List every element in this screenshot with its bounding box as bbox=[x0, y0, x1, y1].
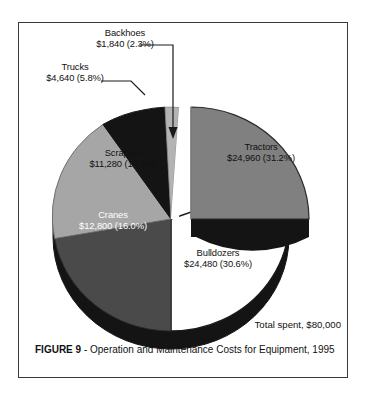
slice-label-trucks: Trucks $4,640 (5.8%) bbox=[19, 61, 131, 84]
slice-label-bulldozers-name: Bulldozers bbox=[159, 247, 277, 258]
slice-label-trucks-value: $4,640 (5.8%) bbox=[19, 72, 131, 83]
figure-number: FIGURE 9 bbox=[35, 344, 81, 355]
figure-caption-text: Operation and Maintenance Costs for Equi… bbox=[90, 344, 335, 355]
slice-label-cranes-value: $12,800 (16.0%) bbox=[53, 220, 173, 231]
slice-label-tractors-name: Tractors bbox=[205, 141, 317, 152]
total-spent-note: Total spent, $80,000 bbox=[255, 319, 341, 330]
slice-label-scrapers-name: Scrapers bbox=[67, 147, 179, 158]
slice-label-backhoes-value: $1,840 (2.3%) bbox=[67, 38, 183, 49]
slice-label-bulldozers-value: $24,480 (30.6%) bbox=[159, 258, 277, 269]
slice-label-tractors: Tractors $24,960 (31.2%) bbox=[205, 141, 317, 164]
slice-label-bulldozers: Bulldozers $24,480 (30.6%) bbox=[159, 247, 277, 270]
figure-caption: FIGURE 9 - Operation and Maintenance Cos… bbox=[35, 343, 335, 357]
slice-label-cranes-name: Cranes bbox=[53, 209, 173, 220]
figure-frame: Backhoes $1,840 (2.3%) Trucks $4,640 (5.… bbox=[18, 22, 348, 378]
figure-caption-separator: - bbox=[81, 344, 90, 355]
slice-label-tractors-value: $24,960 (31.2%) bbox=[205, 152, 317, 163]
slice-label-trucks-name: Trucks bbox=[19, 61, 131, 72]
slice-label-cranes: Cranes $12,800 (16.0%) bbox=[53, 209, 173, 232]
slice-tractors-group[interactable] bbox=[191, 107, 309, 251]
pie-chart: Backhoes $1,840 (2.3%) Trucks $4,640 (5.… bbox=[19, 23, 349, 379]
slice-label-backhoes: Backhoes $1,840 (2.3%) bbox=[67, 27, 183, 50]
slice-label-backhoes-name: Backhoes bbox=[67, 27, 183, 38]
slice-label-scrapers-value: $11,280 (14.1%) bbox=[67, 158, 179, 169]
slice-label-scrapers: Scrapers $11,280 (14.1%) bbox=[67, 147, 179, 170]
